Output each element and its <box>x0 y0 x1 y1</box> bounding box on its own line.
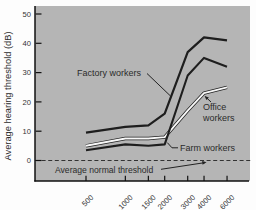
y-tick-label: 20 <box>23 98 31 107</box>
y-axis-title: Average hearing threshold (dB) <box>3 31 13 160</box>
y-tick-label: 40 <box>23 39 31 48</box>
hearing-threshold-chart: 01020304050500100015002000300040006000 A… <box>0 0 256 210</box>
office-workers-label: Office <box>203 102 226 112</box>
normal-threshold-label: Average normal threshold <box>55 165 153 175</box>
x-tick-label: 4000 <box>195 193 213 210</box>
x-tick-label: 1500 <box>139 193 157 210</box>
figure-page: 01020304050500100015002000300040006000 A… <box>0 0 256 210</box>
y-tick-label: 10 <box>23 127 31 136</box>
x-tick-label: 6000 <box>218 193 236 210</box>
x-tick-label: 1000 <box>116 193 134 210</box>
y-tick-label: 30 <box>23 68 31 77</box>
y-tick-label: 0 <box>27 156 31 165</box>
x-tick-label: 2000 <box>156 193 174 210</box>
office-workers-label-line2: workers <box>202 113 235 123</box>
x-tick-label: 3000 <box>179 193 197 210</box>
x-tick-label: 500 <box>80 193 95 208</box>
factory-workers-label: Factory workers <box>77 68 142 78</box>
y-tick-label: 50 <box>23 10 31 19</box>
farm-workers-label: Farm workers <box>180 143 236 153</box>
plot-area <box>35 6 250 181</box>
